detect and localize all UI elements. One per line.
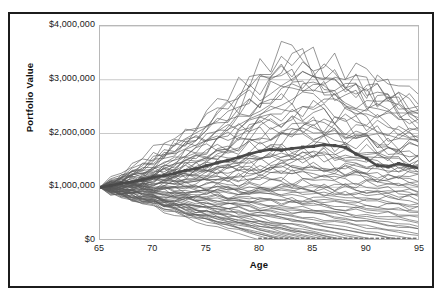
highlight-marker bbox=[141, 178, 144, 181]
ruin-markers bbox=[258, 238, 419, 240]
series-line bbox=[100, 99, 419, 187]
highlight-marker bbox=[280, 149, 283, 152]
ruin-marker bbox=[370, 238, 374, 240]
x-tick-label: 80 bbox=[243, 243, 275, 253]
plot-svg bbox=[100, 26, 419, 240]
highlight-marker bbox=[248, 152, 251, 155]
ruin-marker bbox=[322, 238, 326, 240]
highlight-marker bbox=[184, 169, 187, 172]
ruin-marker bbox=[344, 238, 348, 240]
highlight-marker bbox=[397, 162, 400, 165]
ruin-marker bbox=[312, 238, 316, 240]
highlight-marker bbox=[162, 174, 165, 177]
y-axis-tick-labels: $0$1,000,000$2,000,000$3,000,000$4,000,0… bbox=[10, 14, 95, 254]
highlight-marker bbox=[237, 156, 240, 159]
highlight-marker bbox=[173, 172, 176, 175]
ruin-marker bbox=[258, 238, 262, 240]
ruin-marker bbox=[296, 238, 300, 240]
ruin-marker bbox=[333, 238, 337, 240]
y-tick-label: $4,000,000 bbox=[49, 19, 95, 29]
highlight-marker bbox=[322, 143, 325, 146]
ruin-marker bbox=[418, 238, 419, 240]
highlight-marker bbox=[301, 146, 304, 149]
x-tick-label: 95 bbox=[403, 243, 435, 253]
ruin-marker bbox=[354, 238, 358, 240]
highlight-marker bbox=[408, 164, 411, 167]
highlight-marker bbox=[194, 167, 197, 170]
ruin-marker bbox=[301, 238, 305, 240]
ruin-marker bbox=[290, 238, 294, 240]
ruin-marker bbox=[338, 238, 342, 240]
ruin-marker bbox=[349, 238, 353, 240]
ruin-marker bbox=[376, 238, 380, 240]
y-tick-label: $2,000,000 bbox=[49, 127, 95, 137]
ruin-marker bbox=[317, 238, 321, 240]
y-tick-label: $1,000,000 bbox=[49, 180, 95, 190]
highlight-marker bbox=[152, 175, 155, 178]
highlight-marker bbox=[130, 180, 133, 183]
highlight-marker bbox=[386, 165, 389, 168]
ruin-marker bbox=[328, 238, 332, 240]
x-tick-label: 65 bbox=[83, 243, 115, 253]
highlight-marker bbox=[354, 152, 357, 155]
highlight-marker bbox=[269, 148, 272, 151]
ruin-marker bbox=[306, 238, 310, 240]
highlight-marker bbox=[290, 147, 293, 150]
x-tick-label: 75 bbox=[190, 243, 222, 253]
x-tick-label: 90 bbox=[350, 243, 382, 253]
chart-inner: Portfolio Value Age $0$1,000,000$2,000,0… bbox=[10, 14, 432, 286]
x-axis-tick-labels: 65707580859095 bbox=[99, 243, 419, 257]
x-tick-label: 85 bbox=[296, 243, 328, 253]
ruin-marker bbox=[413, 238, 417, 240]
ruin-marker bbox=[408, 238, 412, 240]
y-tick-label: $3,000,000 bbox=[49, 73, 95, 83]
highlight-marker bbox=[216, 161, 219, 164]
highlight-marker bbox=[120, 182, 123, 185]
ruin-marker bbox=[386, 238, 390, 240]
highlight-marker bbox=[365, 157, 368, 160]
series-paths bbox=[100, 41, 419, 240]
highlight-marker bbox=[109, 184, 112, 187]
ruin-marker bbox=[365, 238, 369, 240]
x-axis-title: Age bbox=[99, 259, 419, 270]
highlight-marker bbox=[205, 164, 208, 167]
ruin-marker bbox=[397, 238, 401, 240]
highlight-marker bbox=[100, 186, 102, 189]
highlight-marker bbox=[376, 164, 379, 167]
ruin-marker bbox=[269, 238, 273, 240]
highlight-marker bbox=[418, 167, 419, 170]
x-tick-label: 70 bbox=[136, 243, 168, 253]
highlight-marker bbox=[226, 159, 229, 162]
chart-frame: Portfolio Value Age $0$1,000,000$2,000,0… bbox=[8, 12, 434, 288]
highlight-marker bbox=[333, 144, 336, 147]
ruin-marker bbox=[360, 238, 364, 240]
highlight-marker bbox=[258, 150, 261, 153]
ruin-marker bbox=[402, 238, 406, 240]
plot-area bbox=[99, 25, 419, 240]
highlight-marker bbox=[344, 146, 347, 149]
ruin-marker bbox=[285, 238, 289, 240]
ruin-marker bbox=[274, 238, 278, 240]
highlight-marker bbox=[312, 145, 315, 148]
ruin-marker bbox=[392, 238, 396, 240]
ruin-marker bbox=[264, 238, 268, 240]
ruin-marker bbox=[381, 238, 385, 240]
ruin-marker bbox=[280, 238, 284, 240]
